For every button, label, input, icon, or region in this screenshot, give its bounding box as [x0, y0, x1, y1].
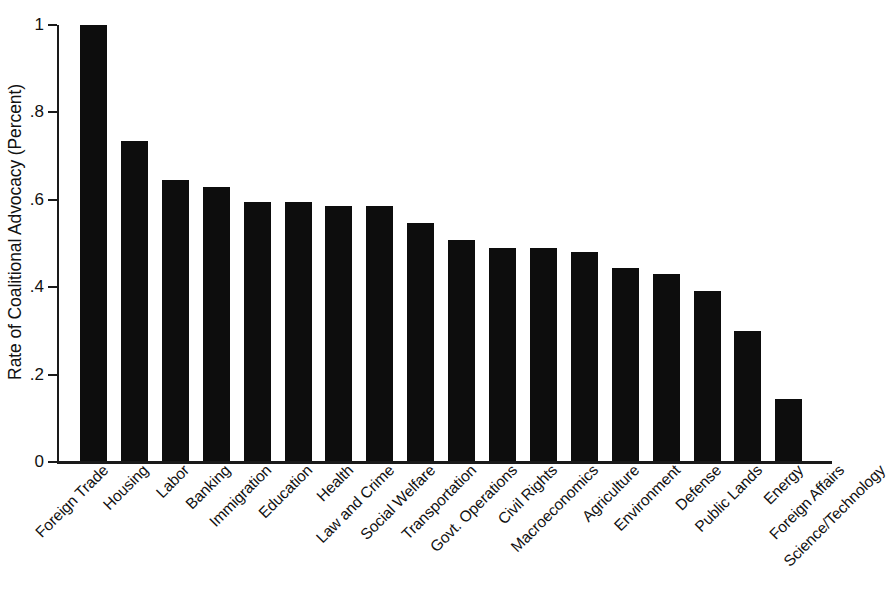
bar — [162, 180, 189, 462]
plot-area — [0, 0, 849, 462]
bar — [121, 141, 148, 462]
bar — [80, 25, 107, 462]
bar — [203, 187, 230, 462]
x-axis-labels: Foreign TradeHousingLaborBankingImmigrat… — [0, 462, 849, 596]
bar — [366, 206, 393, 462]
bar — [244, 202, 271, 462]
